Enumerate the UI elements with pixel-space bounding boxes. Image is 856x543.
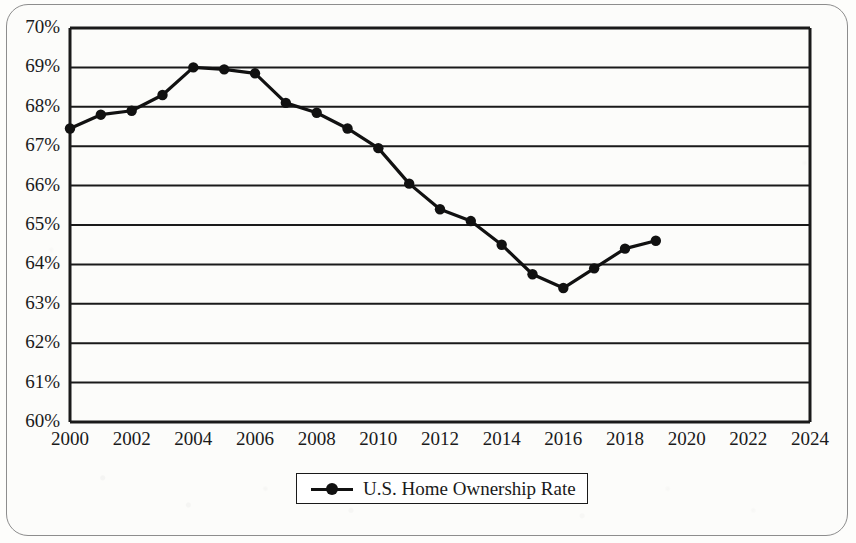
data-point-marker (558, 283, 568, 293)
y-axis-tick-label: 70% (8, 16, 60, 38)
data-point-marker (188, 62, 198, 72)
y-axis-tick-label: 62% (8, 331, 60, 353)
y-axis-tick-label: 64% (8, 252, 60, 274)
y-axis-tick-label: 66% (8, 174, 60, 196)
data-point-marker (126, 106, 136, 116)
y-axis-tick-label: 63% (8, 292, 60, 314)
gridlines-group (70, 28, 810, 422)
data-point-marker (157, 90, 167, 100)
y-axis-tick-label: 61% (8, 371, 60, 393)
data-point-marker (281, 98, 291, 108)
data-point-marker (527, 269, 537, 279)
data-point-marker (620, 243, 630, 253)
y-axis-tick-label: 67% (8, 134, 60, 156)
chart-legend: U.S. Home Ownership Rate (296, 473, 588, 504)
data-point-marker (466, 216, 476, 226)
series-line (70, 67, 656, 288)
data-point-marker (250, 68, 260, 78)
x-axis-tick-label: 2024 (774, 428, 846, 450)
y-axis-tick-label: 68% (8, 95, 60, 117)
legend-line-marker-icon (311, 482, 353, 496)
line-chart: 70%69%68%67%66%65%64%63%62%61%60% 200020… (0, 0, 856, 543)
data-point-marker (435, 204, 445, 214)
data-point-marker (219, 64, 229, 74)
y-axis-tick-label: 69% (8, 55, 60, 77)
chart-canvas (0, 0, 856, 543)
data-point-marker (311, 108, 321, 118)
data-point-marker (496, 240, 506, 250)
data-point-marker (589, 263, 599, 273)
data-point-marker (342, 123, 352, 133)
data-series-group (65, 62, 661, 293)
y-axis-tick-label: 65% (8, 213, 60, 235)
data-point-marker (404, 178, 414, 188)
chart-page: 70%69%68%67%66%65%64%63%62%61%60% 200020… (0, 0, 856, 543)
data-point-marker (96, 109, 106, 119)
data-point-marker (373, 143, 383, 153)
data-point-marker (65, 123, 75, 133)
legend-entry-label: U.S. Home Ownership Rate (363, 478, 576, 500)
data-point-marker (651, 236, 661, 246)
